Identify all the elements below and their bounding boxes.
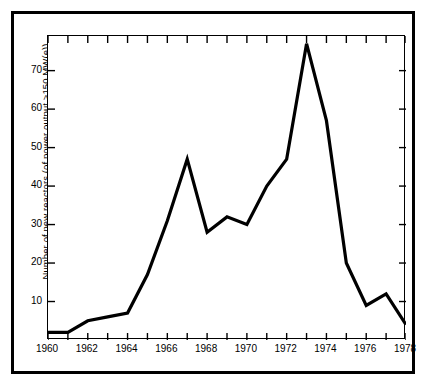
y-tick-label: 70 — [16, 64, 42, 75]
y-tick-label: 10 — [16, 295, 42, 306]
y-tick-label: 60 — [16, 102, 42, 113]
line-chart-plot — [48, 36, 406, 340]
x-tick-label: 1976 — [345, 343, 385, 354]
y-tick-label: 20 — [16, 256, 42, 267]
axis-tick-marks — [48, 36, 406, 340]
x-tick-label: 1978 — [385, 343, 425, 354]
data-series-line — [48, 44, 406, 333]
y-tick-label: 50 — [16, 141, 42, 152]
chart-area: Number of new reactors (of power output … — [14, 14, 418, 377]
x-tick-label: 1970 — [226, 343, 266, 354]
x-tick-label: 1960 — [27, 343, 67, 354]
plot-box — [47, 35, 405, 339]
y-tick-label: 30 — [16, 218, 42, 229]
y-tick-label: 40 — [16, 179, 42, 190]
x-tick-label: 1972 — [266, 343, 306, 354]
x-tick-label: 1974 — [305, 343, 345, 354]
figure-outer-frame: Number of new reactors (of power output … — [11, 11, 415, 374]
x-tick-label: 1966 — [146, 343, 186, 354]
x-tick-label: 1968 — [186, 343, 226, 354]
x-tick-label: 1962 — [67, 343, 107, 354]
x-tick-label: 1964 — [107, 343, 147, 354]
